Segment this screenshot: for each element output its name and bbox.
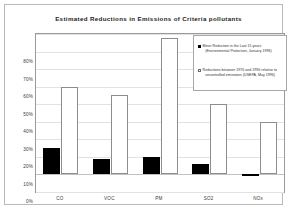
gridline bbox=[36, 192, 284, 193]
y-axis-tick-label: 70% bbox=[9, 76, 33, 81]
bar-VOC-series-1 bbox=[111, 95, 128, 174]
bar-VOC-series-0 bbox=[93, 159, 110, 175]
x-axis-tick-label: SO2 bbox=[189, 196, 229, 201]
legend-label-1: Reductions between 1970 and 1990 relativ… bbox=[203, 68, 277, 77]
bar-PM-series-0 bbox=[143, 157, 160, 175]
y-axis-tick-label: 30% bbox=[9, 146, 33, 151]
legend-label-0-line1: Minor Reduction in the Last 15 years bbox=[203, 44, 262, 48]
bar-SO2-series-1 bbox=[210, 104, 227, 174]
bar-NOx-series-0 bbox=[242, 174, 259, 176]
y-axis-tick-label: 20% bbox=[9, 164, 33, 169]
legend-item-1: Reductions between 1970 and 1990 relativ… bbox=[198, 68, 286, 77]
chart-page: Estimated Reductions in Emissions of Cri… bbox=[0, 0, 287, 209]
y-axis-tick-label: 80% bbox=[9, 59, 33, 64]
y-axis: 80%70%60%50%40%30%20%10%0%-10% bbox=[5, 33, 33, 193]
x-axis: COVOCPMSO2NOx bbox=[35, 195, 285, 205]
bar-SO2-series-0 bbox=[192, 164, 209, 175]
legend-label-0-line2: (Environmental Protection, January 1996) bbox=[203, 49, 272, 53]
legend-swatch-filled-icon bbox=[198, 45, 201, 48]
outer-frame: Estimated Reductions in Emissions of Cri… bbox=[4, 4, 283, 205]
legend-label-0: Minor Reduction in the Last 15 years (En… bbox=[203, 44, 272, 53]
y-axis-tick-label: 10% bbox=[9, 181, 33, 186]
y-axis-tick-label: 40% bbox=[9, 129, 33, 134]
legend-swatch-outlined-icon bbox=[198, 69, 201, 72]
x-axis-tick-label: NOx bbox=[238, 196, 278, 201]
chart-title: Estimated Reductions in Emissions of Cri… bbox=[5, 15, 287, 22]
x-axis-tick-label: PM bbox=[139, 196, 179, 201]
y-axis-tick-label: 0% bbox=[9, 199, 33, 204]
bar-PM-series-1 bbox=[161, 38, 178, 175]
bar-CO-series-0 bbox=[43, 148, 60, 174]
legend-label-1-line2: uncontrolled emissions (USEPA, May 1996) bbox=[203, 73, 275, 77]
chart-legend: Minor Reduction in the Last 15 years (En… bbox=[193, 35, 287, 91]
x-axis-tick-label: CO bbox=[40, 196, 80, 201]
bar-CO-series-1 bbox=[61, 87, 78, 175]
y-axis-tick-label: 50% bbox=[9, 111, 33, 116]
legend-item-0: Minor Reduction in the Last 15 years (En… bbox=[198, 44, 286, 53]
bar-NOx-series-1 bbox=[260, 122, 277, 175]
x-axis-tick-label: VOC bbox=[89, 196, 129, 201]
legend-label-1-line1: Reductions between 1970 and 1990 relativ… bbox=[203, 68, 277, 72]
y-axis-tick-label: 60% bbox=[9, 94, 33, 99]
